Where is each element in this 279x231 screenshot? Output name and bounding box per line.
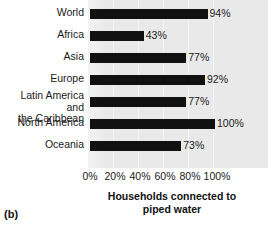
x-tick-label: 20% xyxy=(104,170,125,182)
bar xyxy=(90,9,208,19)
bar-row: Africa 43% xyxy=(0,25,279,47)
bar-value-label: 92% xyxy=(207,74,228,85)
bar xyxy=(90,31,144,41)
x-tick-label: 40% xyxy=(129,170,150,182)
bar-row: Asia 77% xyxy=(0,47,279,69)
x-tick-label: 0% xyxy=(82,170,97,182)
x-tick-label: 80% xyxy=(179,170,200,182)
bar xyxy=(90,53,186,63)
category-label: World xyxy=(0,7,84,19)
x-axis: 0% 20% 40% 60% 80% 100% xyxy=(88,168,268,184)
panel-label: (b) xyxy=(4,208,18,220)
bar-value-label: 73% xyxy=(183,140,204,151)
bar-row: Europe 92% xyxy=(0,69,279,91)
bar-row: Latin America and the Caribbean 77% xyxy=(0,91,279,113)
x-axis-title-line-2: piped water xyxy=(72,203,272,216)
category-label: Europe xyxy=(0,73,84,85)
category-label: Oceania xyxy=(0,139,84,151)
bar-value-label: 43% xyxy=(146,30,167,41)
bar xyxy=(90,75,205,85)
bar-row: Oceania 73% xyxy=(0,135,279,157)
x-axis-title: Households connected to piped water xyxy=(72,190,272,216)
x-tick-label: 60% xyxy=(154,170,175,182)
category-label: Asia xyxy=(0,51,84,63)
x-tick-label: 100% xyxy=(204,170,231,182)
bar-row: World 94% xyxy=(0,3,279,25)
x-axis-title-line-1: Households connected to xyxy=(72,190,272,203)
bar-value-label: 94% xyxy=(210,8,231,19)
bar xyxy=(90,119,215,129)
bar-value-label: 77% xyxy=(188,96,209,107)
category-label: North America xyxy=(0,117,84,129)
bar-row: North America 100% xyxy=(0,113,279,135)
bar-value-label: 77% xyxy=(188,52,209,63)
figure-panel-b: World 94% Africa 43% Asia 77% Europe 92%… xyxy=(0,0,279,231)
bar xyxy=(90,141,181,151)
bar xyxy=(90,97,186,107)
bar-value-label: 100% xyxy=(217,118,244,129)
category-label: Africa xyxy=(0,29,84,41)
